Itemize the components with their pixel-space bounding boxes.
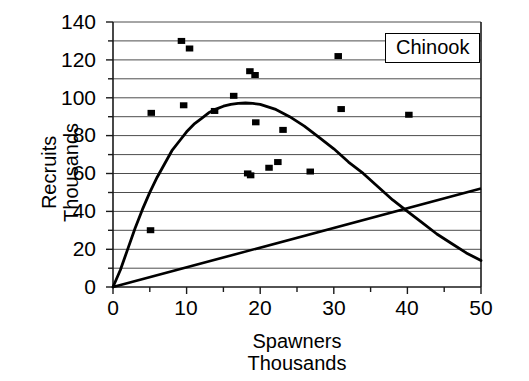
x-axis-title-line1: Spawners (113, 330, 481, 352)
scatter-point (147, 227, 155, 233)
y-tick-label-140: 140 (34, 11, 96, 32)
scatter-point (337, 106, 345, 112)
scatter-point (180, 102, 188, 108)
scatter-point (230, 93, 238, 99)
x-tick-label-30: 30 (314, 297, 354, 318)
scatter-point (148, 110, 156, 116)
y-axis-title: Recruits Thousands (38, 82, 83, 262)
y-tick-label-0: 0 (34, 276, 96, 297)
scatter-point (334, 53, 342, 59)
x-axis-title: Spawners Thousands (113, 330, 481, 375)
x-tick-label-20: 20 (240, 297, 280, 318)
scatter-point (265, 165, 273, 171)
scatter-point (279, 127, 287, 133)
scatter-point (211, 108, 219, 114)
scatter-point (307, 169, 315, 175)
scatter-point (186, 46, 194, 52)
y-axis-ticks (106, 22, 113, 287)
chart-figure: 140 120 100 80 60 40 20 0 0 10 20 30 40 … (0, 0, 529, 381)
x-tick-label-40: 40 (387, 297, 427, 318)
legend-label: Chinook (396, 36, 469, 58)
y-axis-title-line1: Recruits (38, 82, 60, 262)
scatter-point (178, 38, 186, 44)
scatter-point (405, 112, 413, 118)
scatter-point (252, 119, 260, 125)
x-axis-ticks (113, 287, 481, 294)
y-tick-label-120: 120 (34, 49, 96, 70)
scatter-point (247, 172, 255, 178)
x-tick-label-50: 50 (461, 297, 501, 318)
legend-box: Chinook (385, 33, 480, 63)
x-tick-label-10: 10 (166, 297, 206, 318)
x-axis-title-line2: Thousands (113, 352, 481, 374)
scatter-point (251, 72, 258, 78)
y-axis-title-line2: Thousands (60, 82, 82, 262)
x-tick-label-0: 0 (93, 297, 133, 318)
scatter-point (274, 159, 282, 165)
